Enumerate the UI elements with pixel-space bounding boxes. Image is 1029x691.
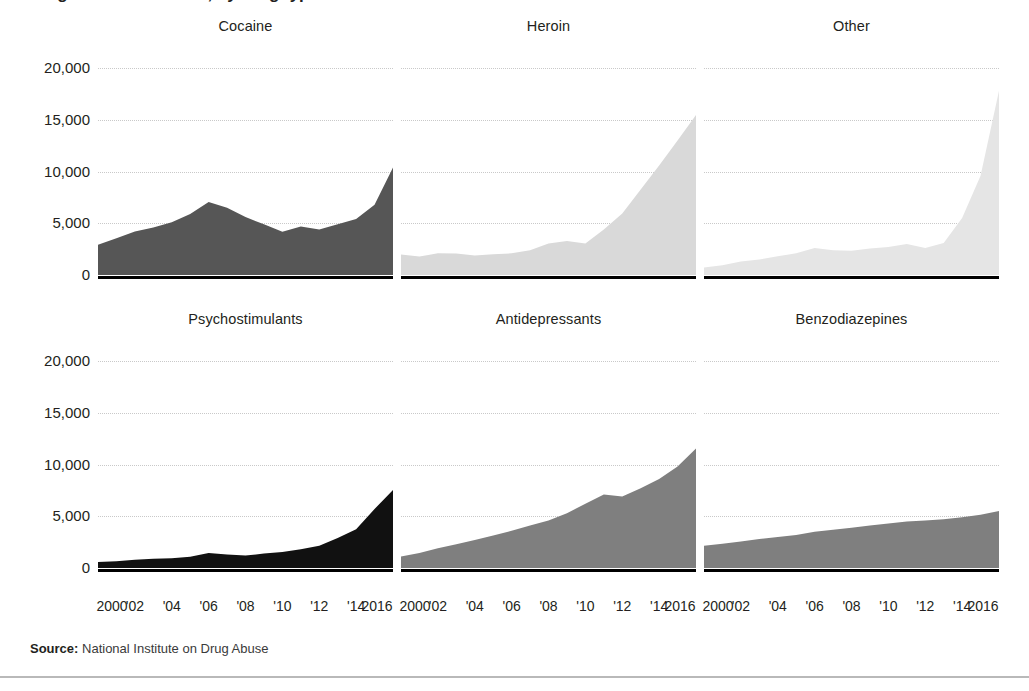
source-note: Source: National Institute on Drug Abuse [30,641,268,656]
area-fill [98,168,393,275]
x-axis-tick-label: '06 [200,598,218,614]
footer-rule [0,676,1029,678]
y-axis-tick-label: 10,000 [12,164,90,179]
axis-baseline [98,276,393,279]
area-series [98,68,393,275]
area-fill [704,91,999,275]
x-axis-tick-label: '08 [539,598,557,614]
plot-area [704,68,999,275]
headline-clipped: Drug overdose deaths, by drug type — Uni… [28,0,828,6]
plot-area [401,68,696,275]
axis-baseline [704,569,999,572]
x-axis-tick-label: '06 [806,598,824,614]
x-axis-tick-label: '04 [769,598,787,614]
x-axis-col2: 2000'02'04'06'08'10'12'142016 [704,598,999,616]
x-axis-tick-label: '08 [842,598,860,614]
area-series [401,361,696,568]
x-axis-tick-label: 2016 [361,598,392,614]
x-axis-tick-label: '02 [429,598,447,614]
x-axis-tick-label: 2016 [664,598,695,614]
area-fill [704,511,999,568]
page-title: Drug overdose deaths, by drug type — Uni… [28,0,828,4]
y-axis-tick-label: 20,000 [12,353,90,368]
area-series [401,68,696,275]
small-multiples-grid: CocaineHeroinOtherPsychostimulantsAntide… [0,18,1029,618]
axis-baseline [401,569,696,572]
chart-page: Drug overdose deaths, by drug type — Uni… [0,0,1029,691]
area-fill [401,449,696,568]
y-axis-tick-label: 15,000 [12,405,90,420]
panel-title: Psychostimulants [98,311,393,327]
y-axis-tick-label: 0 [12,560,90,575]
x-axis-tick-label: '12 [613,598,631,614]
x-axis-tick-label: '10 [576,598,594,614]
x-axis-tick-label: '04 [163,598,181,614]
panel-title: Heroin [401,18,696,34]
x-axis-tick-label: '12 [310,598,328,614]
x-axis-tick-label: '02 [126,598,144,614]
area-series [704,361,999,568]
x-axis-tick-label: 2000 [702,598,733,614]
axis-baseline [98,569,393,572]
panel-title: Cocaine [98,18,393,34]
x-axis-col1: 2000'02'04'06'08'10'12'142016 [401,598,696,616]
y-axis-tick-label: 5,000 [12,508,90,523]
y-axis-tick-label: 5,000 [12,215,90,230]
x-axis-tick-label: 2000 [96,598,127,614]
axis-baseline [704,276,999,279]
panel-title: Antidepressants [401,311,696,327]
plot-area [98,68,393,275]
x-axis-tick-label: '04 [466,598,484,614]
y-axis-tick-label: 10,000 [12,457,90,472]
area-series [704,68,999,275]
x-axis-tick-label: '10 [879,598,897,614]
plot-area [704,361,999,568]
panel-title: Other [704,18,999,34]
plot-area [401,361,696,568]
source-value: National Institute on Drug Abuse [78,641,268,656]
axis-baseline [401,276,696,279]
x-axis-col0: 2000'02'04'06'08'10'12'142016 [98,598,393,616]
x-axis-tick-label: '02 [732,598,750,614]
source-label: Source: [30,641,78,656]
panel-title: Benzodiazepines [704,311,999,327]
y-axis-tick-label: 15,000 [12,112,90,127]
y-axis-tick-label: 20,000 [12,60,90,75]
x-axis-tick-label: 2000 [399,598,430,614]
x-axis-tick-label: 2016 [967,598,998,614]
x-axis-tick-label: '08 [236,598,254,614]
area-fill [401,115,696,275]
plot-area [98,361,393,568]
x-axis-tick-label: '10 [273,598,291,614]
x-axis-tick-label: '06 [503,598,521,614]
area-series [98,361,393,568]
area-fill [98,490,393,568]
y-axis-tick-label: 0 [12,267,90,282]
x-axis-tick-label: '12 [916,598,934,614]
